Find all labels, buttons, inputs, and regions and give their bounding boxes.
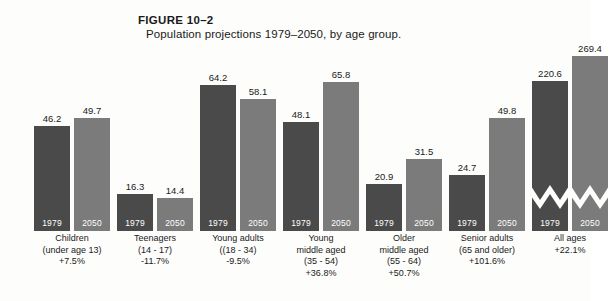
bar-group: 197924.7205049.8: [449, 56, 525, 231]
bar-value-label: 58.1: [235, 86, 281, 97]
bar-year-label: 2050: [406, 218, 442, 228]
category-label-line: All ages: [518, 233, 612, 245]
bar-value-label: 49.8: [484, 105, 530, 116]
bar-year-label: 2050: [74, 218, 110, 228]
bar-1979: 1979: [449, 175, 485, 231]
bar-year-label: 1979: [449, 218, 485, 228]
bar-group: 197964.2205058.1: [200, 56, 276, 231]
category-label: All ages+22.1%: [518, 233, 612, 256]
category-labels-row: Children(under age 13)+7.5%Teenagers(14 …: [0, 233, 590, 293]
bar-year-label: 2050: [240, 218, 276, 228]
figure-number: FIGURE 10–2: [138, 14, 468, 27]
bar-group: 197948.1205065.8: [283, 56, 359, 231]
bar-1979: 1979: [532, 81, 568, 231]
bar-value-label: 48.1: [278, 109, 324, 120]
bar-1979: 1979: [283, 122, 319, 231]
bar-value-label: 65.8: [318, 69, 364, 80]
bar-2050: 2050: [323, 82, 359, 231]
axis-break-zigzag: [532, 183, 568, 209]
bar-value-label: 14.4: [152, 185, 198, 196]
category-label-line: +101.6%: [435, 256, 539, 268]
bar-group: 1979220.62050269.4: [532, 56, 608, 231]
bar-2050: 2050: [240, 99, 276, 231]
bar-2050: 2050: [572, 56, 608, 231]
figure-caption: Population projections 1979–2050, by age…: [138, 27, 468, 42]
category-label-line: +22.1%: [518, 245, 612, 257]
bar-year-label: 1979: [532, 218, 568, 228]
bar-year-label: 2050: [157, 218, 193, 228]
bar-value-label: 269.4: [567, 43, 612, 54]
bar-group: 197920.9205031.5: [366, 56, 442, 231]
bar-year-label: 1979: [366, 218, 402, 228]
bar-2050: 2050: [489, 118, 525, 231]
bar-year-label: 2050: [323, 218, 359, 228]
category-label-line: +50.7%: [352, 268, 456, 280]
bar-year-label: 2050: [489, 218, 525, 228]
bar-group: 197916.3205014.4: [117, 56, 193, 231]
bar-year-label: 1979: [200, 218, 236, 228]
bar-year-label: 1979: [34, 218, 70, 228]
figure-title-block: FIGURE 10–2 Population projections 1979–…: [138, 14, 468, 42]
bar-1979: 1979: [34, 126, 70, 231]
bar-2050: 2050: [74, 118, 110, 231]
bar-value-label: 24.7: [444, 162, 490, 173]
bar-group: 197946.2205049.7: [34, 56, 110, 231]
bar-year-label: 1979: [283, 218, 319, 228]
axis-break-zigzag: [572, 183, 608, 209]
bar-value-label: 31.5: [401, 146, 447, 157]
bar-2050: 2050: [157, 198, 193, 231]
bar-1979: 1979: [200, 85, 236, 231]
bar-1979: 1979: [117, 194, 153, 231]
bar-value-label: 64.2: [195, 72, 241, 83]
bar-value-label: 220.6: [527, 68, 573, 79]
chart-plot-area: 197946.2205049.7197916.3205014.4197964.2…: [0, 56, 590, 231]
bar-year-label: 1979: [117, 218, 153, 228]
bar-2050: 2050: [406, 159, 442, 231]
bar-year-label: 2050: [572, 218, 608, 228]
bar-value-label: 49.7: [69, 105, 115, 116]
bar-1979: 1979: [366, 184, 402, 231]
bar-value-label: 20.9: [361, 171, 407, 182]
